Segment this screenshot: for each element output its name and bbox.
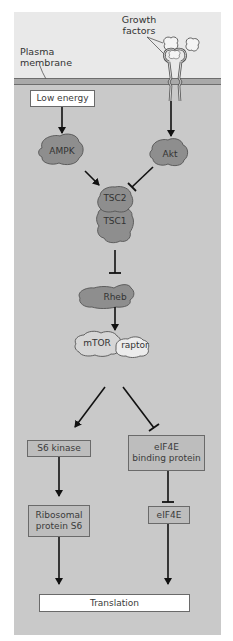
- low-energy-label: Low energy: [37, 93, 89, 104]
- translation-box: Translation: [39, 594, 190, 612]
- arrow-ampk-to-tsc: [85, 171, 99, 185]
- growth-factors-label: Growth factors: [117, 14, 161, 36]
- eif4e-binding-protein-box: eIF4E binding protein: [128, 435, 205, 471]
- inhibit-eif4e-bp-to-eif4e: [162, 470, 174, 502]
- low-energy-box: Low energy: [30, 90, 95, 107]
- inhibit-tsc-to-rheb: [109, 250, 121, 273]
- tsc1-label: TSC1: [98, 216, 132, 226]
- translation-label: Translation: [90, 598, 139, 609]
- growth-factors-label-line2: factors: [117, 25, 161, 36]
- eif4e-bp-label-line2: binding protein: [132, 453, 200, 464]
- s6-kinase-label: S6 kinase: [37, 443, 80, 454]
- plasma-membrane-label-line2: membrane: [20, 57, 72, 68]
- rheb-label: Rheb: [95, 292, 135, 302]
- s6-kinase-box: S6 kinase: [27, 440, 91, 457]
- eif4e-box: eIF4E: [148, 506, 190, 524]
- plasma-membrane: [14, 78, 221, 85]
- inhibit-akt-to-tsc: [128, 167, 153, 191]
- ribosomal-protein-s6-box: Ribosomal protein S6: [28, 505, 90, 537]
- mtor-label: mTOR: [78, 338, 116, 348]
- arrow-mtor-to-s6-kinase: [75, 387, 105, 427]
- plasma-membrane-label: Plasma membrane: [20, 46, 72, 68]
- growth-factors-label-line1: Growth: [117, 14, 161, 25]
- inhibit-mtor-to-eif4e-bp: [123, 387, 159, 431]
- diagram-canvas: Growth factors Plasma membrane Low energ…: [0, 0, 233, 641]
- eif4e-label: eIF4E: [157, 510, 182, 521]
- rps6-label-line1: Ribosomal: [36, 510, 83, 521]
- rps6-label-line2: protein S6: [36, 521, 82, 532]
- eif4e-bp-label-line1: eIF4E: [154, 442, 179, 453]
- receptor-icon: [164, 49, 185, 101]
- plasma-membrane-label-line1: Plasma: [20, 46, 72, 57]
- raptor-label: raptor: [120, 340, 150, 350]
- ampk-label: AMPK: [42, 146, 82, 156]
- akt-label: Akt: [152, 149, 188, 159]
- growth-factor-leader-line: [147, 37, 163, 43]
- growth-factor-leader-line: [147, 37, 166, 56]
- tsc2-label: TSC2: [98, 193, 132, 203]
